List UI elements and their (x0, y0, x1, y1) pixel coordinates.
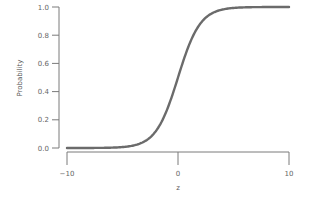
y-axis-label: Probability (16, 59, 24, 96)
x-tick-label: 0 (176, 170, 180, 178)
y-tick-label: 0.0 (38, 145, 49, 153)
y-tick-label: 1.0 (38, 4, 49, 12)
series-group (67, 7, 289, 148)
sigmoid-chart: 0.00.20.40.60.81.0 −10010 Probability z (0, 0, 311, 205)
sigmoid-curve (67, 7, 289, 148)
y-tick-label: 0.8 (38, 32, 49, 40)
y-tick-label: 0.4 (38, 88, 50, 96)
x-axis-label: z (176, 184, 180, 192)
x-axis: −10010 (60, 152, 294, 178)
x-tick-label: 10 (285, 170, 294, 178)
y-axis: 0.00.20.40.60.81.0 (38, 4, 59, 153)
x-tick-label: −10 (60, 170, 75, 178)
y-tick-label: 0.2 (38, 116, 49, 124)
y-tick-label: 0.6 (38, 60, 50, 68)
